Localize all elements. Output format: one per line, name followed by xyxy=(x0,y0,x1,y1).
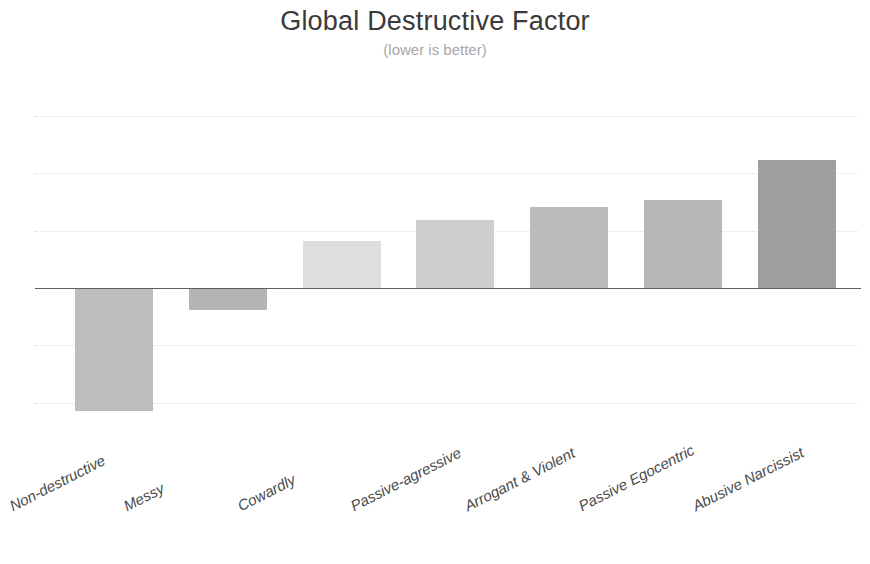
x-axis-label: Arrogant & Violent xyxy=(462,445,577,514)
x-axis-label: Passive-agressive xyxy=(348,445,464,515)
x-axis-label: Messy xyxy=(121,480,167,514)
x-axis-label: Non-destructive xyxy=(7,452,108,514)
x-axis-label: Passive Egocentric xyxy=(576,442,697,514)
x-axis-label: Cowardly xyxy=(235,472,298,515)
x-axis-label: Abusive Narcissist xyxy=(690,444,806,514)
x-axis-category-labels: Non-destructiveMessyCowardlyPassive-agre… xyxy=(0,0,870,564)
bar-chart: Global Destructive Factor (lower is bett… xyxy=(0,0,870,564)
